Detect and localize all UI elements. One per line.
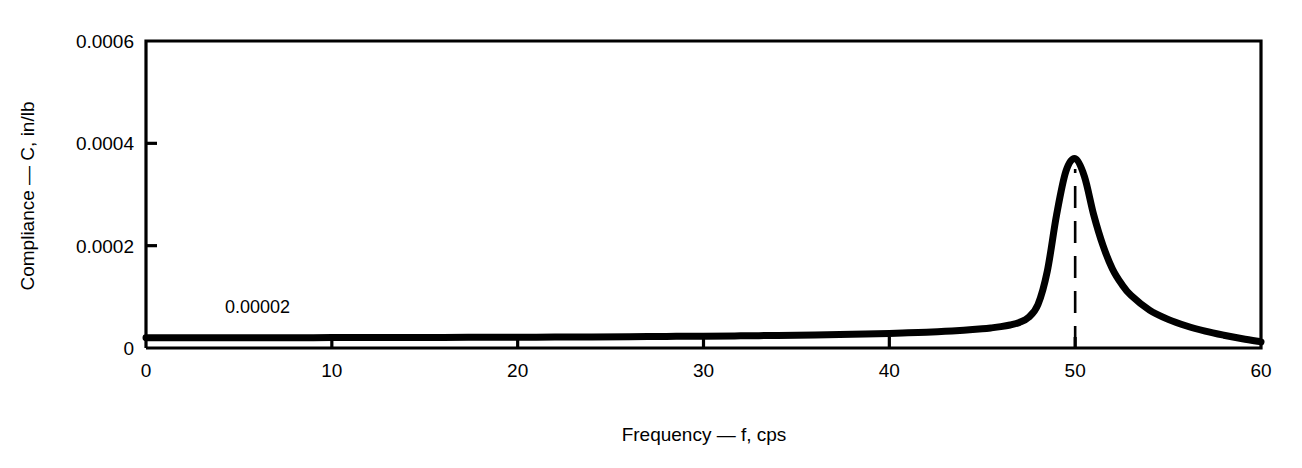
y-tick-label-0.0006: 0.0006: [76, 31, 134, 52]
x-axis-title: Frequency — f, cps: [622, 424, 787, 445]
y-tick-label-0: 0: [123, 338, 134, 359]
y-tick-label-0.0004: 0.0004: [76, 133, 135, 154]
x-tick-label-30: 30: [693, 360, 714, 381]
chart-annotations: 0.00002: [225, 297, 290, 317]
x-tick-label-50: 50: [1065, 360, 1086, 381]
y-axis-title: Compliance — C, in/lb: [17, 101, 38, 290]
x-tick-label-10: 10: [321, 360, 342, 381]
x-tick-label-60: 60: [1250, 360, 1271, 381]
x-tick-label-20: 20: [507, 360, 528, 381]
annotation-baseline-value: 0.00002: [225, 297, 290, 317]
compliance-vs-frequency-chart: 0102030405060 00.00020.00040.0006 0.0000…: [0, 0, 1302, 468]
x-tick-label-40: 40: [879, 360, 900, 381]
x-tick-label-0: 0: [141, 360, 152, 381]
chart-background: [0, 0, 1302, 468]
chart-figure: 0102030405060 00.00020.00040.0006 0.0000…: [0, 0, 1302, 468]
y-tick-label-0.0002: 0.0002: [76, 236, 134, 257]
